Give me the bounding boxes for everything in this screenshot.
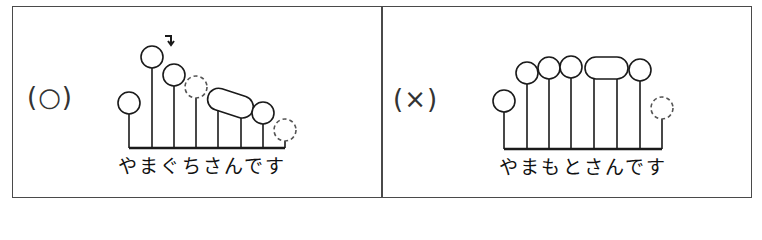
mora-ma [516, 62, 538, 84]
mora-ya [493, 90, 515, 112]
mora-su-devoiced [651, 97, 673, 119]
sentence-incorrect: やまもとさんです [499, 152, 668, 179]
mora-mo [538, 57, 560, 79]
mora-de [629, 59, 651, 81]
mora-to [560, 56, 582, 78]
mora-san-joined [585, 57, 628, 79]
